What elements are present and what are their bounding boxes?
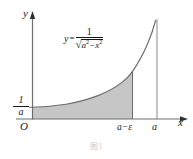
equation-fraction: 1 √ a2−x2 [76, 27, 104, 50]
figure-container: y x O 1 a a−ε a y = 1 √ a2−x2 图1 [0, 0, 193, 159]
x-tick-label-a: a [152, 121, 157, 132]
y-axis-arrowhead [30, 11, 35, 19]
origin-label: O [20, 121, 28, 132]
equation-annotation: y = 1 √ a2−x2 [64, 27, 103, 50]
x-tick-label-a-minus-epsilon: a−ε [117, 122, 132, 132]
shaded-area-under-curve [33, 71, 133, 119]
y-intercept-label-one-over-a: 1 a [12, 95, 30, 117]
figure-caption: 图1 [0, 143, 193, 151]
x-axis-label: x [178, 117, 183, 128]
y-intercept-numerator: 1 [12, 95, 30, 106]
equation-left-side: y [64, 34, 68, 44]
radicand: a2−x2 [81, 39, 104, 50]
equation-denominator: √ a2−x2 [76, 38, 104, 50]
y-axis-label: y [23, 8, 28, 19]
equation-equals-sign: = [69, 34, 74, 43]
square-root-icon: √ a2−x2 [76, 39, 104, 50]
plot-canvas [0, 0, 193, 159]
y-intercept-denominator: a [12, 107, 30, 118]
radicand-exponent-x: 2 [99, 39, 102, 45]
equation-numerator: 1 [76, 27, 104, 37]
